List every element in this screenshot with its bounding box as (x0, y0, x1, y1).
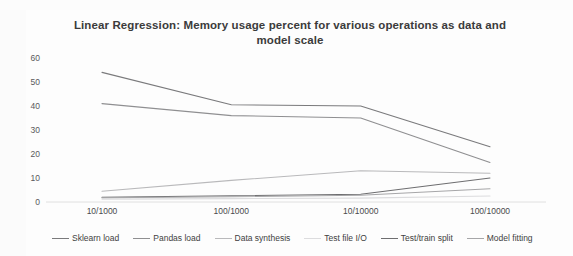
x-axis-tick-3: 100/10000 (430, 206, 550, 216)
y-axis-tick-10: 10 (16, 174, 40, 182)
legend-item-1[interactable]: Pandas load (133, 233, 200, 243)
legend-swatch-icon-2 (215, 238, 232, 239)
legend-swatch-icon-5 (467, 238, 484, 239)
legend-item-0[interactable]: Sklearn load (52, 233, 119, 243)
legend-label-3: Test file I/O (324, 233, 367, 243)
page-margin-top (0, 0, 573, 10)
plot-area (46, 58, 546, 202)
legend-label-5: Model fitting (487, 233, 533, 243)
chart-container: Linear Regression: Memory usage percent … (0, 0, 573, 256)
legend-label-4: Test/train split (401, 233, 453, 243)
legend-item-5[interactable]: Model fitting (467, 233, 533, 243)
legend-swatch-icon-1 (133, 238, 150, 239)
x-axis-tick-1: 100/1000 (171, 206, 291, 216)
series-line-4 (102, 178, 490, 197)
legend-swatch-icon-4 (381, 238, 398, 239)
legend-item-4[interactable]: Test/train split (381, 233, 453, 243)
y-axis-tick-50: 50 (16, 78, 40, 86)
legend-label-2: Data synthesis (235, 233, 291, 243)
series-line-0 (102, 72, 490, 146)
chart-title: Linear Regression: Memory usage percent … (70, 18, 510, 48)
y-axis-tick-60: 60 (16, 54, 40, 62)
legend-swatch-icon-0 (52, 238, 69, 239)
x-axis-tick-0: 10/1000 (42, 206, 162, 216)
chart-legend: Sklearn loadPandas loadData synthesisTes… (52, 231, 552, 245)
series-line-2 (102, 171, 490, 191)
y-axis-tick-40: 40 (16, 102, 40, 110)
legend-swatch-icon-3 (304, 238, 321, 239)
y-axis-tick-30: 30 (16, 126, 40, 134)
y-axis-tick-0: 0 (16, 198, 40, 206)
series-line-1 (102, 104, 490, 163)
legend-item-3[interactable]: Test file I/O (304, 233, 367, 243)
y-axis-tick-20: 20 (16, 150, 40, 158)
series-lines (102, 72, 490, 199)
plot-svg (46, 58, 546, 202)
legend-item-2[interactable]: Data synthesis (215, 233, 291, 243)
legend-label-1: Pandas load (153, 233, 200, 243)
legend-label-0: Sklearn load (72, 233, 119, 243)
x-axis-tick-2: 10/10000 (301, 206, 421, 216)
